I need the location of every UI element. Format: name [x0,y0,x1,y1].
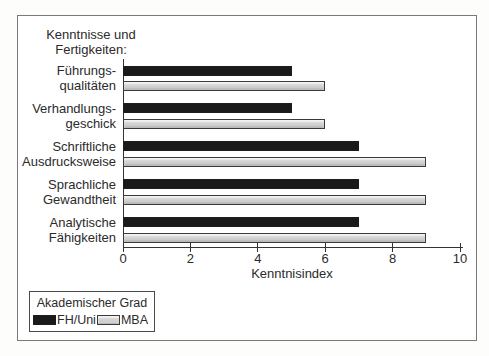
chart-frame: Kenntnisse und Fertigkeiten: Führungs- q… [17,15,477,341]
x-tick-label: 4 [243,251,273,266]
bar-mba-schriftliche-ausdrucksweise [123,157,426,167]
bar-fhuni-schriftliche-ausdrucksweise [123,141,359,151]
category-label-schriftliche-ausdrucksweise: Schriftliche Ausdrucksweise [22,139,116,169]
x-tick-label: 8 [378,251,408,266]
category-label-verhandlungsgeschick: Verhandlungs- geschick [22,101,116,131]
category-line: Sprachliche [22,177,116,192]
category-line: Schriftliche [22,139,116,154]
bar-mba-fuehrungsqualitaeten [123,81,325,91]
legend-label-fhuni: FH/Uni [57,313,96,327]
legend-swatch-mba [97,315,120,325]
category-label-fuehrungsqualitaeten: Führungs- qualitäten [22,63,116,93]
x-tick-label: 10 [445,251,475,266]
legend-label-mba: MBA [121,313,148,327]
category-line: geschick [22,116,116,131]
category-line: Gewandtheit [22,192,116,207]
legend-row: FH/Uni MBA [30,313,154,327]
category-line: qualitäten [22,78,116,93]
bar-fhuni-fuehrungsqualitaeten [123,66,292,76]
category-label-analytische-faehigkeiten: Analytische Fähigkeiten [22,215,116,245]
bar-fhuni-analytische-faehigkeiten [123,217,359,227]
bar-mba-sprachliche-gewandtheit [123,195,426,205]
x-axis-title: Kenntnisindex [123,266,461,281]
legend-title: Akademischer Grad [30,296,154,310]
category-line: Verhandlungs- [22,101,116,116]
chart-title-line1: Kenntnisse und [22,27,160,42]
bar-mba-analytische-faehigkeiten [123,233,426,243]
category-line: Führungs- [22,63,116,78]
x-tick-label: 0 [108,251,138,266]
bar-fhuni-verhandlungsgeschick [123,103,292,113]
bar-mba-verhandlungsgeschick [123,119,325,129]
category-line: Ausdrucksweise [22,154,116,169]
bar-fhuni-sprachliche-gewandtheit [123,179,359,189]
category-line: Analytische [22,215,116,230]
x-tick-label: 6 [310,251,340,266]
x-tick-label: 2 [175,251,205,266]
chart-title-line2: Fertigkeiten: [22,42,160,57]
category-line: Fähigkeiten [22,230,116,245]
category-label-sprachliche-gewandtheit: Sprachliche Gewandtheit [22,177,116,207]
legend: Akademischer Grad FH/Uni MBA [29,291,155,332]
chart-title: Kenntnisse und Fertigkeiten: [22,27,160,57]
legend-swatch-fhuni [33,315,56,325]
x-axis-line [123,247,463,248]
